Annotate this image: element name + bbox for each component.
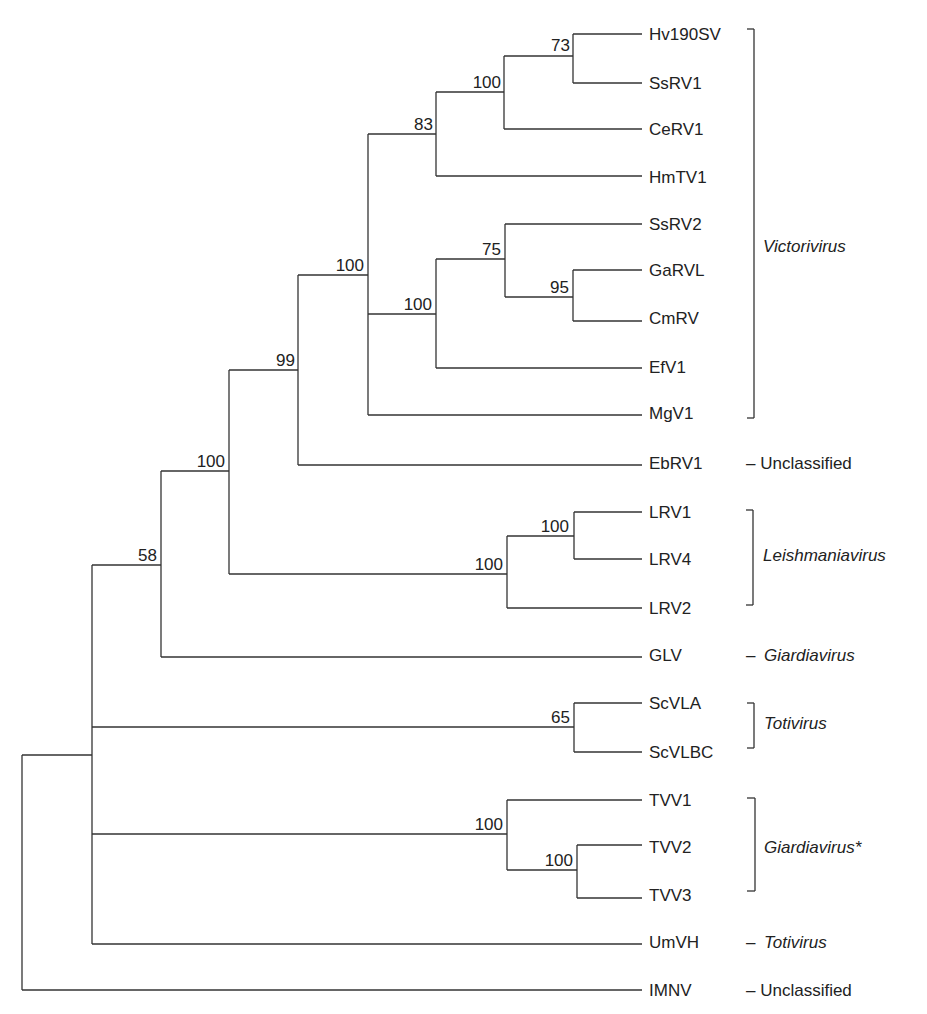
group-label-unclassified: – Unclassified [746, 454, 852, 473]
support-value: 99 [276, 351, 295, 370]
leaf-label: EfV1 [649, 358, 686, 377]
bootstrap-values: 73 100 83 95 75 100 100 99 100 100 100 5… [138, 36, 573, 870]
support-value: 100 [197, 452, 225, 471]
leaf-label: HmTV1 [649, 168, 707, 187]
support-value: 100 [475, 555, 503, 574]
support-value: 100 [336, 256, 364, 275]
support-value: 75 [482, 240, 501, 259]
leaf-label: CmRV [649, 309, 699, 328]
leaf-label: TVV2 [649, 838, 692, 857]
group-label-text: Giardiavirus [764, 646, 855, 665]
phylogenetic-tree: Hv190SV SsRV1 CeRV1 HmTV1 SsRV2 GaRVL Cm… [0, 0, 927, 1014]
dash-glyph: – [746, 646, 756, 665]
leaf-label: TVV1 [649, 791, 692, 810]
group-labels: Victorivirus – Unclassified Leishmaniavi… [746, 237, 886, 1000]
group-label-totivirus: Totivirus [764, 714, 827, 733]
support-value: 65 [551, 708, 570, 727]
bracket-totivirus [747, 703, 754, 748]
leaf-label: GLV [649, 646, 682, 665]
group-label-giardiavirus: – Giardiavirus [746, 646, 855, 665]
group-label-totivirus-umvh: – Totivirus [746, 933, 827, 952]
leaf-label: GaRVL [649, 261, 704, 280]
dash-glyph: – [746, 933, 756, 952]
group-label-leishmaniavirus: Leishmaniavirus [763, 546, 886, 565]
leaf-label: ScVLBC [649, 743, 713, 762]
support-value: 100 [475, 815, 503, 834]
bracket-victorivirus [747, 29, 754, 418]
leaf-label: MgV1 [649, 404, 693, 423]
support-value: 100 [545, 851, 573, 870]
leaf-label: UmVH [649, 933, 699, 952]
support-value: 58 [138, 546, 157, 565]
bracket-giardiavirus-star [747, 798, 755, 891]
leaf-label: CeRV1 [649, 120, 704, 139]
leaf-label: TVV3 [649, 886, 692, 905]
leaf-label: Hv190SV [649, 25, 721, 44]
tree-branches [22, 34, 642, 990]
leaf-label: ScVLA [649, 694, 702, 713]
leaf-label: SsRV1 [649, 74, 702, 93]
support-value: 95 [550, 278, 569, 297]
group-label-giardiavirus-star: Giardiavirus* [764, 838, 863, 857]
group-label-victorivirus: Victorivirus [763, 237, 846, 256]
support-value: 100 [404, 295, 432, 314]
group-label-text: Totivirus [764, 933, 827, 952]
support-value: 73 [551, 36, 570, 55]
support-value: 100 [473, 73, 501, 92]
leaf-label: EbRV1 [649, 454, 703, 473]
support-value: 83 [414, 115, 433, 134]
leaf-label: LRV1 [649, 503, 691, 522]
group-label-unclassified: – Unclassified [746, 981, 852, 1000]
leaf-label: IMNV [649, 981, 692, 1000]
leaf-labels: Hv190SV SsRV1 CeRV1 HmTV1 SsRV2 GaRVL Cm… [649, 25, 721, 1000]
leaf-label: LRV2 [649, 599, 691, 618]
support-value: 100 [541, 517, 569, 536]
leaf-label: SsRV2 [649, 215, 702, 234]
bracket-leishmaniavirus [746, 510, 753, 605]
leaf-label: LRV4 [649, 550, 691, 569]
